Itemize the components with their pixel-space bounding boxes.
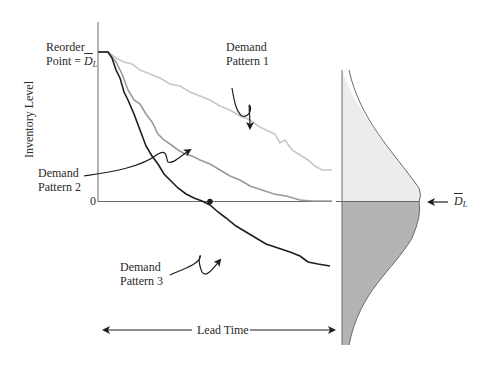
mean-demand-subscript: L	[463, 200, 467, 209]
pattern-3-pointer	[170, 256, 220, 275]
reorder-point-subscript: L	[93, 60, 97, 69]
reorder-point-line2: Point = DL	[46, 54, 97, 72]
distribution-lower-fill	[342, 202, 420, 345]
pattern-3-label: Demand Pattern 3	[120, 260, 163, 288]
zero-label: 0	[90, 194, 96, 208]
reorder-point-label: Reorder Point = DL	[46, 40, 97, 72]
pattern-2-label: Demand Pattern 2	[38, 166, 81, 194]
reorder-point-symbol: D	[84, 54, 93, 68]
y-axis-label: Inventory Level	[22, 81, 37, 158]
pattern-2-pointer	[84, 150, 190, 176]
demand-pattern-2-curve	[98, 52, 332, 201]
pattern-1-label: Demand Pattern 1	[226, 40, 269, 68]
reorder-point-line1: Reorder	[46, 40, 97, 54]
pattern-2-line1: Demand	[38, 166, 81, 180]
distribution-upper-fill	[342, 70, 421, 202]
pattern-1-line2: Pattern 1	[226, 54, 269, 68]
pattern-2-line2: Pattern 2	[38, 180, 81, 194]
mean-demand-label: DL	[454, 194, 467, 212]
demand-pattern-3-curve	[98, 52, 330, 266]
pattern-3-line2: Pattern 3	[120, 274, 163, 288]
stockout-point	[207, 199, 213, 205]
pattern-1-pointer	[232, 88, 251, 128]
pattern-1-line1: Demand	[226, 40, 269, 54]
mean-demand-symbol: D	[454, 194, 463, 208]
lead-time-label: Lead Time	[197, 323, 249, 337]
reorder-point-prefix: Point =	[46, 54, 84, 68]
pattern-3-line1: Demand	[120, 260, 163, 274]
